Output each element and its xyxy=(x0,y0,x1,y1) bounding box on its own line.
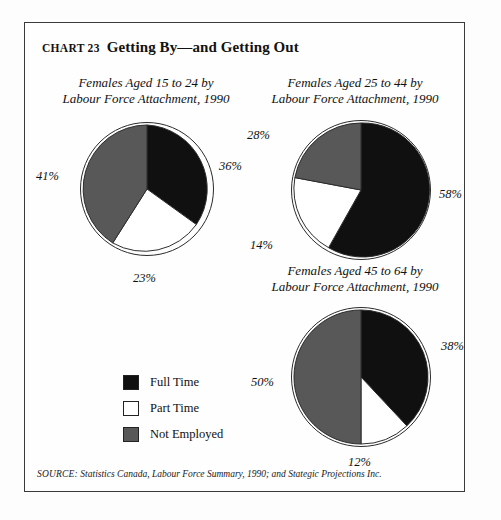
legend-swatch-full-time-icon xyxy=(123,375,139,390)
pie-panel-25-44-title: Females Aged 25 to 44 by Labour Force At… xyxy=(240,75,470,107)
figure-page: CHART 23Getting By—and Getting Out Femal… xyxy=(0,0,501,520)
pie-label-25-44-not-employed: 28% xyxy=(247,128,270,143)
pie-panel-25-44-title-line1: Females Aged 25 to 44 by xyxy=(287,75,422,90)
legend-item-full-time: Full Time xyxy=(123,369,223,395)
source-note: SOURCE: Statistics Canada, Labour Force … xyxy=(37,469,382,479)
legend-swatch-not-employed-icon xyxy=(123,427,139,442)
source-text: Statistics Canada, Labour Force Summary,… xyxy=(80,469,381,479)
pie-label-45-64-full-time: 38% xyxy=(441,339,464,354)
pie-panel-45-64-title-line2: Labour Force Attachment, 1990 xyxy=(240,279,470,295)
page-title: CHART 23Getting By—and Getting Out xyxy=(42,38,299,56)
pie-label-15-24-part-time: 23% xyxy=(133,271,156,286)
pie-panel-45-64-title: Females Aged 45 to 64 by Labour Force At… xyxy=(240,263,470,295)
pie-slice-45-64-not-employed xyxy=(294,310,361,444)
pie-label-15-24-not-employed: 41% xyxy=(36,169,59,184)
pie-chart-15-24 xyxy=(80,122,214,256)
legend-item-part-time: Part Time xyxy=(123,395,223,421)
pie-chart-45-64 xyxy=(291,307,431,447)
pie-label-15-24-full-time: 36% xyxy=(219,159,242,174)
legend: Full Time Part Time Not Employed xyxy=(123,369,223,447)
pie-panel-45-64-title-line1: Females Aged 45 to 64 by xyxy=(287,263,422,278)
legend-label-part-time: Part Time xyxy=(150,401,199,416)
pie-label-25-44-part-time: 14% xyxy=(250,238,273,253)
pie-panel-15-24-title: Females Aged 15 to 24 by Labour Force At… xyxy=(31,75,261,107)
chart-number: CHART 23 xyxy=(42,42,100,54)
pie-label-45-64-part-time: 12% xyxy=(348,455,371,470)
pie-label-25-44-full-time: 58% xyxy=(439,187,462,202)
legend-label-full-time: Full Time xyxy=(150,375,199,390)
pie-panel-15-24-title-line1: Females Aged 15 to 24 by xyxy=(78,75,213,90)
pie-panel-15-24-title-line2: Labour Force Attachment, 1990 xyxy=(31,91,261,107)
legend-label-not-employed: Not Employed xyxy=(150,427,223,442)
legend-swatch-part-time-icon xyxy=(123,401,139,416)
source-label: SOURCE: xyxy=(37,469,78,479)
chart-title-text: Getting By—and Getting Out xyxy=(107,39,299,55)
pie-panel-25-44-title-line2: Labour Force Attachment, 1990 xyxy=(240,91,470,107)
pie-label-45-64-not-employed: 50% xyxy=(251,375,274,390)
figure-frame: CHART 23Getting By—and Getting Out Femal… xyxy=(24,22,465,492)
legend-item-not-employed: Not Employed xyxy=(123,421,223,447)
pie-chart-25-44 xyxy=(291,120,431,260)
